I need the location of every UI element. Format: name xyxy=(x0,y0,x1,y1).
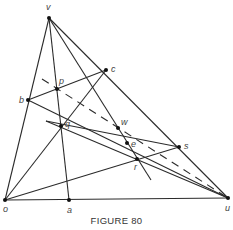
point-v xyxy=(47,16,51,20)
label-p: p xyxy=(58,76,64,86)
label-v: v xyxy=(46,2,51,12)
label-c: c xyxy=(111,64,116,74)
label-w: w xyxy=(121,117,128,127)
line-os xyxy=(5,147,179,200)
point-s xyxy=(177,145,181,149)
label-q: q xyxy=(65,119,70,129)
label-s: s xyxy=(184,141,189,151)
line-vo xyxy=(5,18,49,200)
label-b: b xyxy=(19,95,24,105)
point-r xyxy=(135,157,139,161)
point-markers xyxy=(3,16,230,202)
label-u: u xyxy=(225,203,230,213)
point-p xyxy=(55,87,59,91)
point-c xyxy=(104,68,108,72)
label-e: e xyxy=(131,139,136,149)
point-o xyxy=(3,198,7,202)
point-u xyxy=(226,196,230,200)
label-r: r xyxy=(134,162,138,172)
point-w xyxy=(116,126,120,130)
label-a: a xyxy=(67,205,72,215)
point-e xyxy=(125,141,129,145)
line-ou xyxy=(5,198,228,200)
point-q xyxy=(59,124,63,128)
figure-caption: FIGURE 80 xyxy=(0,215,233,226)
point-a xyxy=(67,198,71,202)
figure-80-diagram: v o u a b c p q w e r s xyxy=(0,0,233,230)
label-o: o xyxy=(3,204,8,214)
point-b xyxy=(26,98,30,102)
